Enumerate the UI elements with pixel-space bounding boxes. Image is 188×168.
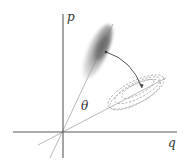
phase-space-diagram: p q θ (0, 0, 188, 168)
arrow-start-dot (105, 51, 108, 54)
diagram-svg (0, 0, 188, 168)
original-distribution-blob (75, 21, 118, 84)
rotated-q-axis (38, 78, 166, 145)
q-axis-label: q (168, 137, 176, 149)
rotation-arrow (106, 52, 142, 88)
theta-angle-label: θ (81, 100, 88, 112)
p-axis-label: p (67, 11, 75, 23)
